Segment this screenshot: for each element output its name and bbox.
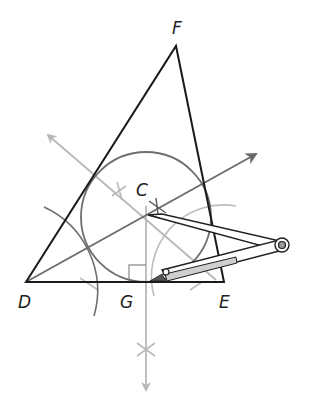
incenter-construction-diagram: F C D G E [0,0,309,404]
triangle-def [26,46,224,282]
label-g: G [120,292,133,312]
arc-mark-e-base [190,282,202,290]
label-e: E [219,292,230,312]
compass-pencil-tip [150,274,166,281]
compass-screw [163,269,169,275]
label-d: D [18,292,31,312]
arc-from-d [44,207,98,316]
label-f: F [172,18,182,38]
right-angle-marker [129,265,146,282]
compass [148,214,289,281]
arc-mark-left-base [80,278,98,290]
label-c: C [136,180,148,200]
compass-hinge-inner [279,242,286,249]
